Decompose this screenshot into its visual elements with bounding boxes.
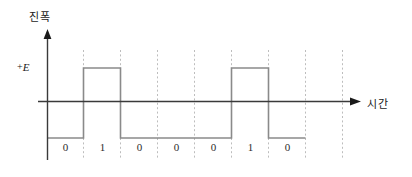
bit-label: 0 [158,141,195,153]
signal-waveform [47,68,306,138]
y-axis-arrow-icon [44,29,52,39]
bit-label: 1 [84,141,121,153]
x-axis-arrow-icon [350,97,361,105]
amplitude-tick-symbol: E [23,61,30,73]
y-axis-title: 진폭 [29,8,50,24]
bit-label: 0 [269,141,306,153]
bit-label: 0 [195,141,232,153]
waveform-figure: 진폭 시간 +E 0 1 0 0 0 1 0 [0,0,412,177]
amplitude-tick-label: +E [17,61,29,73]
bit-label: 0 [47,141,84,153]
x-axis [38,97,361,105]
x-axis-title: 시간 [367,95,388,111]
bit-label: 0 [121,141,158,153]
bit-label: 1 [232,141,269,153]
